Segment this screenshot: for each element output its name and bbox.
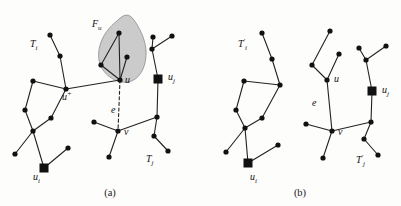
node bbox=[356, 45, 361, 50]
edge bbox=[15, 131, 33, 154]
node bbox=[22, 107, 27, 112]
edge bbox=[272, 59, 280, 85]
edge bbox=[109, 131, 118, 157]
node bbox=[383, 43, 388, 48]
edge bbox=[306, 124, 332, 131]
label-Tjp-sub: j bbox=[362, 160, 365, 168]
edge bbox=[154, 117, 157, 136]
node bbox=[116, 30, 121, 35]
node bbox=[361, 136, 366, 141]
node bbox=[329, 128, 334, 133]
label-uj: uj bbox=[168, 71, 175, 85]
edge bbox=[50, 35, 60, 56]
label-u: u bbox=[125, 74, 130, 85]
edge bbox=[60, 56, 66, 89]
node bbox=[165, 148, 170, 153]
node bbox=[303, 121, 308, 126]
edge bbox=[262, 33, 272, 59]
edge bbox=[244, 81, 280, 85]
node bbox=[242, 125, 247, 130]
label-uj-sub: j bbox=[172, 77, 175, 85]
node bbox=[309, 62, 314, 67]
label-Fu-sub: u bbox=[98, 24, 102, 32]
node bbox=[259, 115, 264, 120]
label-v: v bbox=[124, 126, 129, 137]
node bbox=[277, 82, 282, 87]
edge bbox=[371, 91, 372, 122]
edge bbox=[323, 131, 332, 158]
label-Ti: Ti bbox=[30, 38, 38, 52]
node-ui bbox=[40, 164, 49, 173]
edge bbox=[154, 136, 168, 151]
label-e: e bbox=[312, 97, 317, 108]
panel-b-caption: (b) bbox=[294, 187, 307, 199]
label-uplus-sup: + bbox=[67, 90, 72, 98]
label-uplus: u+ bbox=[62, 90, 72, 102]
node bbox=[149, 46, 154, 51]
label-e: e bbox=[111, 104, 116, 115]
node bbox=[327, 28, 332, 33]
label-v-base: v bbox=[124, 126, 129, 137]
edge bbox=[327, 80, 332, 131]
node bbox=[106, 154, 111, 159]
node bbox=[241, 78, 246, 83]
node bbox=[48, 115, 53, 120]
node bbox=[275, 142, 280, 147]
label-uj: uj bbox=[382, 84, 389, 98]
edge bbox=[226, 128, 245, 152]
node bbox=[223, 149, 228, 154]
node bbox=[320, 155, 325, 160]
node bbox=[375, 152, 380, 157]
label-v-base: v bbox=[338, 126, 343, 137]
label-Fu: Fu bbox=[91, 18, 102, 32]
edge bbox=[312, 31, 330, 65]
edge bbox=[157, 79, 158, 117]
label-Tj: Tj bbox=[146, 153, 154, 167]
label-Tip-sub: i bbox=[245, 44, 247, 52]
edge bbox=[25, 110, 33, 131]
edge bbox=[366, 60, 372, 91]
edge bbox=[25, 81, 33, 110]
edge bbox=[262, 85, 280, 118]
node bbox=[336, 51, 341, 56]
node bbox=[98, 62, 103, 67]
edge bbox=[236, 110, 245, 128]
label-ui-sub: i bbox=[255, 177, 257, 185]
node bbox=[91, 119, 96, 124]
edge bbox=[245, 128, 248, 163]
node-uj bbox=[368, 87, 377, 96]
node bbox=[150, 34, 155, 39]
label-uj-sub: j bbox=[386, 90, 389, 98]
figure-diagram: TiFuuu+ evujuiTj(a)T′ iuevujuiT′ j(b) bbox=[0, 0, 401, 206]
edge bbox=[312, 65, 327, 80]
node bbox=[154, 114, 159, 119]
node bbox=[65, 145, 70, 150]
panel-b: T′ iuevujuiT′ j(b) bbox=[223, 28, 389, 199]
label-ui: ui bbox=[33, 171, 40, 185]
label-u-base: u bbox=[334, 73, 339, 84]
node bbox=[57, 53, 62, 58]
node bbox=[269, 56, 274, 61]
edge bbox=[33, 131, 44, 168]
edge bbox=[33, 118, 51, 131]
node bbox=[30, 128, 35, 133]
figure-container: TiFuuu+ evujuiTj(a)T′ iuevujuiT′ j(b) bbox=[0, 0, 401, 206]
node bbox=[12, 151, 17, 156]
label-ui-sub: i bbox=[38, 177, 40, 185]
label-u-base: u bbox=[125, 74, 130, 85]
label-Tjp: T′ j bbox=[356, 153, 365, 168]
node bbox=[324, 77, 329, 82]
node bbox=[47, 32, 52, 37]
label-u: u bbox=[334, 73, 339, 84]
label-e-base: e bbox=[111, 104, 116, 115]
edge bbox=[66, 80, 120, 89]
label-Ti-sub: i bbox=[36, 44, 38, 52]
node bbox=[117, 77, 122, 82]
edge bbox=[245, 118, 262, 128]
panel-a: TiFuuu+ evujuiTj(a) bbox=[12, 15, 175, 199]
node bbox=[169, 33, 174, 38]
node bbox=[151, 133, 156, 138]
label-v: v bbox=[338, 126, 343, 137]
edge bbox=[236, 81, 244, 110]
label-ui: ui bbox=[250, 171, 257, 185]
